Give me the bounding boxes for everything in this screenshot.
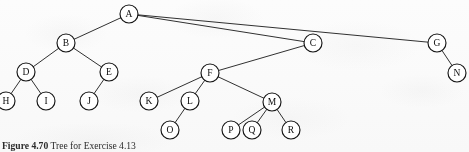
tree-node-q[interactable]: Q [243, 121, 261, 139]
figure-caption: Figure 4.70 Tree for Exercise 4.13 [2, 139, 302, 152]
node-label-f: F [207, 68, 212, 78]
tree-edge-e-j [94, 79, 104, 93]
node-label-a: A [126, 9, 133, 19]
tree-node-r[interactable]: R [282, 121, 300, 139]
tree-node-h[interactable]: H [0, 92, 15, 110]
tree-edge-c-f [219, 46, 305, 71]
tree-node-b[interactable]: B [57, 34, 75, 52]
caption-text: Tree for Exercise 4.13 [50, 140, 135, 151]
node-label-b: B [63, 38, 69, 48]
tree-edge-b-d [33, 48, 58, 66]
tree-node-k[interactable]: K [140, 92, 158, 110]
node-label-g: G [434, 38, 441, 48]
node-label-d: D [23, 67, 30, 77]
node-label-k: K [146, 96, 153, 106]
tree-edge-f-l [195, 80, 205, 93]
node-label-q: Q [249, 125, 256, 135]
tree-node-e[interactable]: E [100, 63, 118, 81]
node-label-n: N [454, 68, 461, 78]
edge-layer [11, 15, 452, 125]
tree-node-d[interactable]: D [17, 63, 35, 81]
tree-node-f[interactable]: F [201, 64, 219, 82]
node-label-m: M [268, 97, 277, 107]
tree-edge-g-n [442, 50, 452, 65]
tree-edge-a-b [74, 18, 121, 39]
tree-node-o[interactable]: O [161, 121, 179, 139]
tree-node-j[interactable]: J [80, 92, 98, 110]
node-label-e: E [106, 67, 112, 77]
tree-node-p[interactable]: P [222, 121, 240, 139]
node-label-i: I [44, 96, 47, 106]
tree-node-c[interactable]: C [304, 34, 322, 52]
tree-node-m[interactable]: M [263, 93, 281, 111]
tree-node-a[interactable]: A [120, 5, 138, 23]
tree-edge-m-r [277, 109, 286, 122]
node-label-o: O [167, 125, 174, 135]
node-label-p: P [228, 125, 233, 135]
tree-edge-f-m [218, 77, 264, 98]
tree-node-i[interactable]: I [37, 92, 55, 110]
tree-edge-l-o [175, 108, 185, 122]
caption-number: Figure 4.70 [2, 140, 48, 151]
node-label-h: H [3, 96, 10, 106]
tree-node-g[interactable]: G [428, 34, 446, 52]
tree-edge-d-h [11, 79, 21, 93]
tree-edge-d-i [31, 79, 41, 93]
tree-node-n[interactable]: N [448, 64, 466, 82]
node-label-j: J [87, 96, 91, 106]
tree-node-l[interactable]: L [181, 92, 199, 110]
tree-edge-b-e [73, 48, 101, 67]
node-label-l: L [187, 96, 193, 106]
tree-diagram: ABCGDEFNHIJKLMOPQR [0, 0, 469, 152]
figure-container: ABCGDEFNHIJKLMOPQR Figure 4.70 Tree for … [0, 0, 469, 152]
node-label-c: C [310, 38, 316, 48]
node-layer: ABCGDEFNHIJKLMOPQR [0, 5, 466, 139]
node-label-r: R [288, 125, 295, 135]
